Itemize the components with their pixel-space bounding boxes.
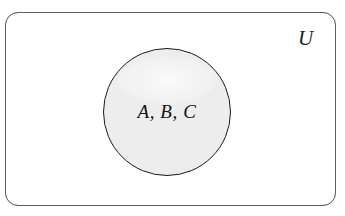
set-diagram-canvas: U A, B, C xyxy=(0,0,345,216)
universal-set-label: U xyxy=(298,28,313,49)
set-elements-label: A, B, C xyxy=(104,102,230,122)
set-circle-abc: A, B, C xyxy=(103,48,231,176)
circle-shading-highlight xyxy=(118,57,216,103)
